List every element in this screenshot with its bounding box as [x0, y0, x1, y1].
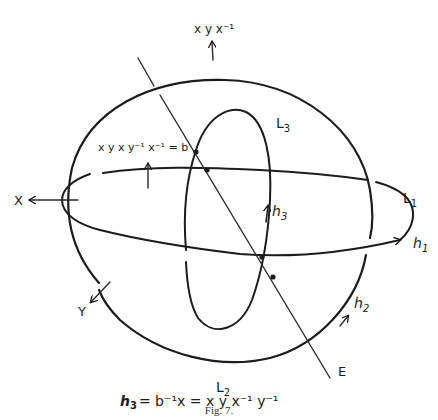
- dot-top-left: [193, 149, 198, 154]
- line-E: [138, 58, 330, 378]
- dot-bottom-left: [259, 254, 264, 259]
- labels: x y x⁻¹ x y x y⁻¹ x⁻¹ = b X Y L3 L1 L2 h…: [14, 22, 428, 398]
- label-L3: L3: [276, 115, 290, 134]
- arrow-h2-icon: [340, 316, 348, 326]
- label-y: Y: [77, 304, 86, 319]
- label-L1: L1: [403, 190, 417, 209]
- label-b-relation: x y x y⁻¹ x⁻¹ = b: [98, 141, 188, 154]
- outer-sphere-L2: [68, 80, 372, 362]
- dot-top-right: [204, 167, 209, 172]
- label-h1: h1: [413, 235, 428, 254]
- ellipse-L1: [62, 168, 413, 256]
- figure-caption: Fig. 7.: [0, 404, 438, 416]
- figure-7-diagram: x y x⁻¹ x y x y⁻¹ x⁻¹ = b X Y L3 L1 L2 h…: [0, 0, 438, 420]
- inner-loop-L3: [185, 110, 270, 329]
- label-h3: h3: [272, 203, 287, 222]
- generator-arrows: [30, 42, 348, 326]
- label-top-generator: x y x⁻¹: [194, 22, 234, 36]
- dot-bottom-right: [270, 274, 275, 279]
- caption-text: Fig. 7.: [205, 404, 233, 416]
- label-x: X: [14, 193, 23, 208]
- arrow-up-icon: [212, 42, 213, 60]
- label-E: E: [338, 364, 346, 379]
- label-h2: h2: [354, 295, 369, 314]
- arrow-y-icon: [91, 282, 110, 302]
